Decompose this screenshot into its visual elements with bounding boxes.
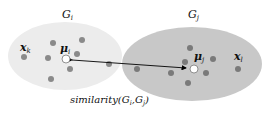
similarity-caption: similarity(Gi,Gj): [70, 94, 149, 107]
centroid-mu-i: [62, 55, 70, 63]
centroid-mu-j: [190, 65, 198, 73]
cluster-similarity-diagram: Gi Gj xk xl μi μj similarity(Gi,Gj): [0, 0, 267, 113]
cluster-gi-label: Gi: [62, 8, 73, 22]
cluster-gj-label: Gj: [188, 8, 200, 22]
cluster-gj-ellipse: [122, 27, 262, 101]
